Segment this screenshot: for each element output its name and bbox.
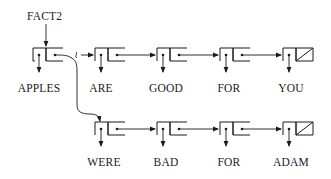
nil-slash-icon bbox=[296, 48, 313, 61]
bottom-cell-4-nil bbox=[283, 122, 313, 135]
top-label-5: YOU bbox=[278, 82, 304, 94]
bottom-cell-2 bbox=[157, 122, 187, 135]
top-cell-4 bbox=[220, 48, 250, 61]
bottom-label-1: WERE bbox=[87, 156, 120, 168]
bottom-label-3: FOR bbox=[218, 156, 241, 168]
bottom-cell-3 bbox=[220, 122, 250, 135]
nil-slash-icon bbox=[296, 122, 313, 135]
list-diagram: FACT2 bbox=[0, 0, 331, 179]
bottom-label-4: ADAM bbox=[273, 156, 309, 168]
top-cell-2 bbox=[95, 48, 125, 61]
bottom-label-2: BAD bbox=[154, 156, 179, 168]
break-squiggle-icon bbox=[76, 52, 77, 58]
top-cell-5-nil bbox=[283, 48, 313, 61]
top-cell-3 bbox=[157, 48, 187, 61]
bottom-cell-1 bbox=[95, 122, 125, 135]
top-cell-1 bbox=[33, 48, 63, 61]
top-label-2: ARE bbox=[89, 82, 113, 94]
top-label-1: APPLES bbox=[18, 82, 61, 94]
broken-link-start bbox=[55, 55, 70, 57]
bottom-arrows bbox=[101, 129, 289, 146]
top-label-4: FOR bbox=[218, 82, 241, 94]
top-cdr-arrows bbox=[55, 52, 281, 58]
fact2-label: FACT2 bbox=[27, 10, 62, 22]
top-label-3: GOOD bbox=[149, 82, 183, 94]
